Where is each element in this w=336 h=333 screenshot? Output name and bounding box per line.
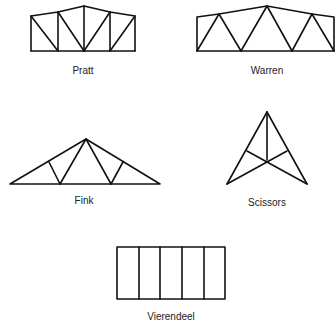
scissors-label: Scissors (248, 197, 286, 208)
pratt-label: Pratt (72, 65, 93, 76)
fink-truss (10, 139, 160, 184)
scissors-truss (227, 112, 307, 184)
vierendeel-truss (117, 247, 225, 299)
truss-diagram (0, 0, 336, 333)
warren-label: Warren (251, 65, 283, 76)
fink-label: Fink (75, 195, 94, 206)
vierendeel-label: Vierendeel (147, 311, 195, 322)
warren-truss (197, 6, 334, 51)
pratt-truss (31, 6, 135, 51)
